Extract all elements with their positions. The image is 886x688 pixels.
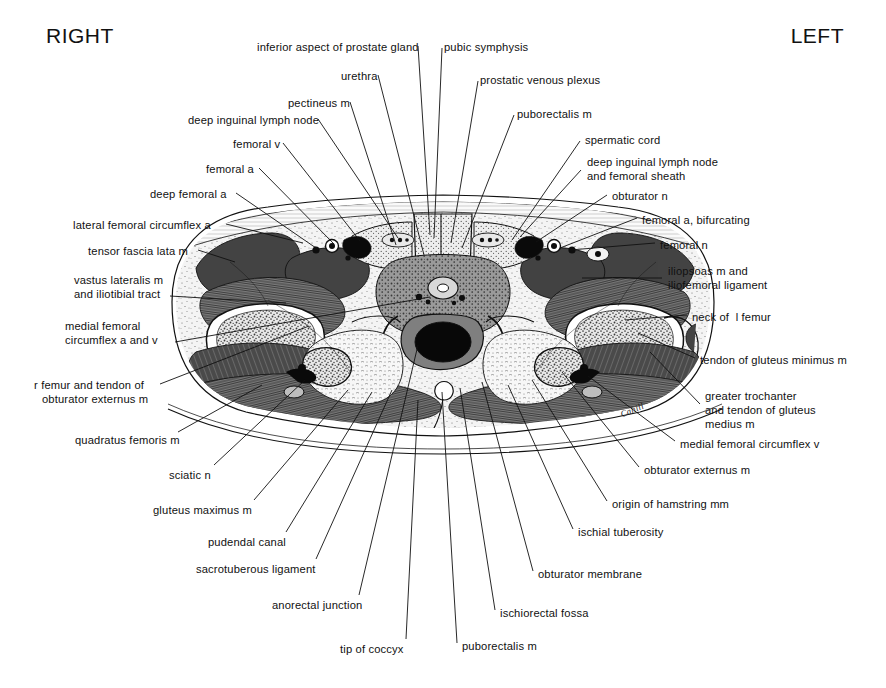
label-left-side-18: ischiorectal fossa (500, 607, 589, 621)
label-left-side-3: obturator n (612, 190, 668, 204)
label-right-side-17: anorectal junction (272, 599, 362, 613)
label-left-side-17: obturator membrane (538, 568, 642, 582)
label-right-side-2: femoral a (206, 163, 254, 177)
header-right: RIGHT (46, 24, 114, 48)
label-right-side-leader-18 (406, 400, 418, 639)
label-left-side-6: iliopsoas m and (668, 265, 748, 279)
label-top-center-3: pubic symphysis (444, 41, 528, 55)
label-left-side-12: medius m (705, 418, 755, 432)
label-right-side-10: r femur and tendon of (34, 379, 144, 393)
label-right-side-13: sciatic n (169, 469, 211, 483)
label-right-side-18: tip of coccyx (340, 643, 404, 657)
label-left-side-9: tendon of gluteus minimus m (700, 354, 847, 368)
label-top-center-4: prostatic venous plexus (480, 74, 600, 88)
label-right-side-1: femoral v (233, 138, 280, 152)
label-left-side-0: spermatic cord (585, 134, 660, 148)
label-right-side-8: medial femoral (65, 320, 140, 334)
label-right-side-0: deep inguinal lymph node (188, 114, 319, 128)
label-top-center-2: pectineus m (288, 97, 350, 111)
label-right-side-15: pudendal canal (208, 536, 286, 550)
label-right-side-11: obturator externus m (42, 393, 148, 407)
label-left-side-13: medial femoral circumflex v (680, 438, 820, 452)
label-right-side-9: circumflex a and v (65, 334, 158, 348)
label-right-side-12: quadratus femoris m (75, 434, 180, 448)
label-right-side-14: gluteus maximus m (153, 504, 252, 518)
label-left-side-7: iliofemoral ligament (668, 279, 767, 293)
label-right-side-7: and iliotibial tract (74, 288, 160, 302)
label-left-side-2: and femoral sheath (587, 170, 685, 184)
label-left-side-16: ischial tuberosity (578, 526, 663, 540)
label-right-side-3: deep femoral a (150, 188, 227, 202)
label-left-side-10: greater trochanter (705, 390, 797, 404)
label-right-side-6: vastus lateralis m (74, 274, 163, 288)
label-right-side-5: tensor fascia lata m (88, 245, 188, 259)
header-left: LEFT (791, 24, 844, 48)
label-left-side-8: neck of l femur (692, 311, 771, 325)
label-top-center-5: puborectalis m (517, 108, 592, 122)
label-left-side-11: and tendon of gluteus (705, 404, 816, 418)
label-right-side-4: lateral femoral circumflex a (73, 219, 211, 233)
label-top-center-0: inferior aspect of prostate gland (257, 41, 419, 55)
label-left-side-5: femoral n (660, 239, 708, 253)
label-top-center-1: urethra (341, 70, 378, 84)
anatomy-plate: RIGHT LEFT Cahill deep inguinal lymph no… (0, 0, 886, 688)
label-left-side-15: origin of hamstring mm (612, 498, 729, 512)
label-left-side-19: puborectalis m (462, 640, 537, 654)
label-left-side-1: deep inguinal lymph node (587, 156, 718, 170)
label-left-side-14: obturator externus m (644, 464, 750, 478)
label-right-side-16: sacrotuberous ligament (196, 563, 316, 577)
label-left-side-4: femoral a, bifurcating (642, 214, 750, 228)
